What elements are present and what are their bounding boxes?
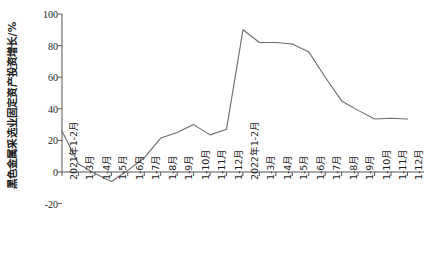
plot-area	[0, 0, 433, 253]
data-series-line	[62, 30, 407, 182]
axes-group	[62, 14, 424, 172]
chart-figure: 黑色金属采选业固定资产投资增长/% 100806040200-20 2021年1…	[0, 0, 433, 253]
y-axis-tick-marks	[58, 14, 62, 204]
x-axis-tick-marks	[62, 172, 407, 176]
